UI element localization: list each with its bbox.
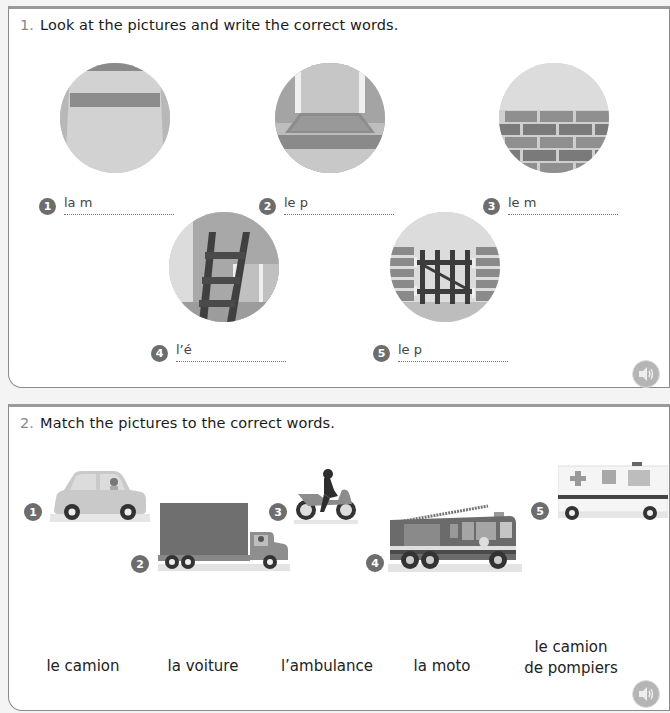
fire-engine-picture[interactable] bbox=[388, 502, 522, 574]
answer-input-3[interactable]: le m bbox=[508, 195, 618, 215]
car-picture[interactable] bbox=[50, 470, 150, 524]
answer-input-4[interactable]: l’é bbox=[176, 342, 286, 362]
word-le-camion[interactable]: le camion bbox=[38, 656, 128, 677]
answer-5: 5 le p bbox=[373, 342, 508, 362]
answer-3: 3 le m bbox=[483, 195, 618, 215]
exercise-number: 2. bbox=[20, 415, 34, 431]
vehicle-badge-2: 2 bbox=[131, 555, 149, 573]
speaker-icon bbox=[637, 366, 655, 382]
motorbike-picture[interactable] bbox=[294, 468, 358, 526]
number-badge: 3 bbox=[483, 198, 500, 215]
picture-brick-wall bbox=[499, 63, 609, 173]
answer-1: 1 la m bbox=[39, 195, 174, 215]
vehicle-badge-1: 1 bbox=[24, 503, 42, 521]
vehicle-badge-3: 3 bbox=[269, 503, 287, 521]
word-la-voiture[interactable]: la voiture bbox=[158, 656, 248, 677]
exercise-1-panel: 1.Look at the pictures and write the cor… bbox=[8, 6, 670, 388]
answer-input-2[interactable]: le p bbox=[284, 195, 394, 215]
picture-ceiling bbox=[60, 63, 170, 173]
number-badge: 5 bbox=[373, 345, 390, 362]
exercise-2-instruction: 2.Match the pictures to the correct word… bbox=[20, 415, 335, 431]
instruction-text: Look at the pictures and write the corre… bbox=[40, 17, 398, 33]
picture-gate bbox=[390, 212, 500, 322]
exercise-number: 1. bbox=[20, 17, 34, 33]
number-badge: 1 bbox=[39, 198, 56, 215]
word-la-moto[interactable]: la moto bbox=[402, 656, 482, 677]
answer-input-5[interactable]: le p bbox=[398, 342, 508, 362]
audio-button-2[interactable] bbox=[632, 680, 660, 708]
word-le-camion-de-pompiers[interactable]: le camion de pompiers bbox=[516, 637, 626, 679]
audio-button-1[interactable] bbox=[632, 360, 660, 388]
ambulance-picture[interactable] bbox=[558, 462, 668, 522]
picture-ladder bbox=[169, 212, 279, 322]
speaker-icon bbox=[637, 686, 655, 702]
exercise-1-instruction: 1.Look at the pictures and write the cor… bbox=[20, 17, 398, 33]
answer-4: 4 l’é bbox=[151, 342, 286, 362]
answer-input-1[interactable]: la m bbox=[64, 195, 174, 215]
number-badge: 2 bbox=[259, 198, 276, 215]
picture-floor bbox=[275, 63, 385, 173]
answer-2: 2 le p bbox=[259, 195, 394, 215]
vehicle-badge-4: 4 bbox=[366, 554, 384, 572]
number-badge: 4 bbox=[151, 345, 168, 362]
vehicle-badge-5: 5 bbox=[531, 502, 549, 520]
word-l-ambulance[interactable]: l’ambulance bbox=[272, 656, 382, 677]
instruction-text: Match the pictures to the correct words. bbox=[40, 415, 335, 431]
